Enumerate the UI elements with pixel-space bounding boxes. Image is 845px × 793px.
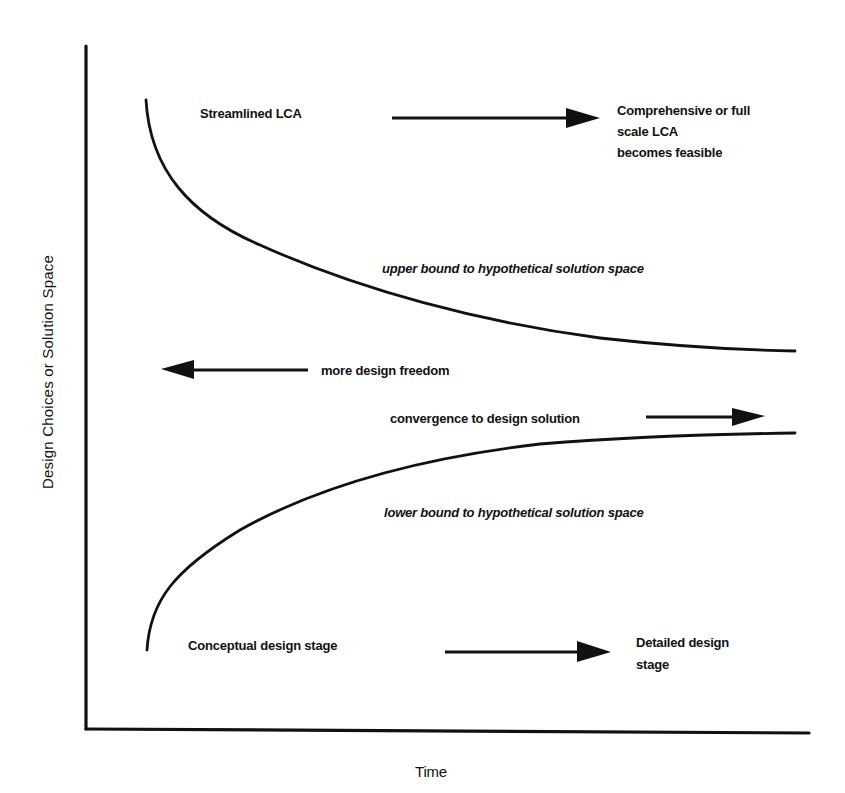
more-design-freedom-label: more design freedom <box>321 361 449 380</box>
upper-bound-label: upper bound to hypothetical solution spa… <box>382 259 644 278</box>
conceptual-design-stage-label: Conceptual design stage <box>188 636 337 655</box>
arrow-convergence <box>646 408 765 426</box>
y-axis-label: Design Choices or Solution Space <box>39 255 56 489</box>
lower-bound-label: lower bound to hypothetical solution spa… <box>384 503 644 522</box>
arrowhead-right-icon <box>577 641 611 662</box>
x-axis <box>86 729 809 733</box>
arrow-streamlined-to-comprehensive <box>392 108 600 128</box>
arrowhead-right-icon <box>732 408 765 426</box>
x-axis-label: Time <box>415 762 447 781</box>
arrow-more-design-freedom <box>161 360 308 379</box>
arrow-conceptual-to-detailed <box>445 641 611 662</box>
streamlined-lca-label: Streamlined LCA <box>200 104 302 123</box>
lower-bound-curve <box>147 433 795 650</box>
arrowhead-right-icon <box>566 108 600 128</box>
detailed-design-stage-label: Detailed design stage <box>636 632 729 676</box>
comprehensive-lca-label: Comprehensive or full scale LCA becomes … <box>617 100 750 163</box>
convergence-label: convergence to design solution <box>390 409 580 428</box>
arrowhead-left-icon <box>161 360 194 379</box>
